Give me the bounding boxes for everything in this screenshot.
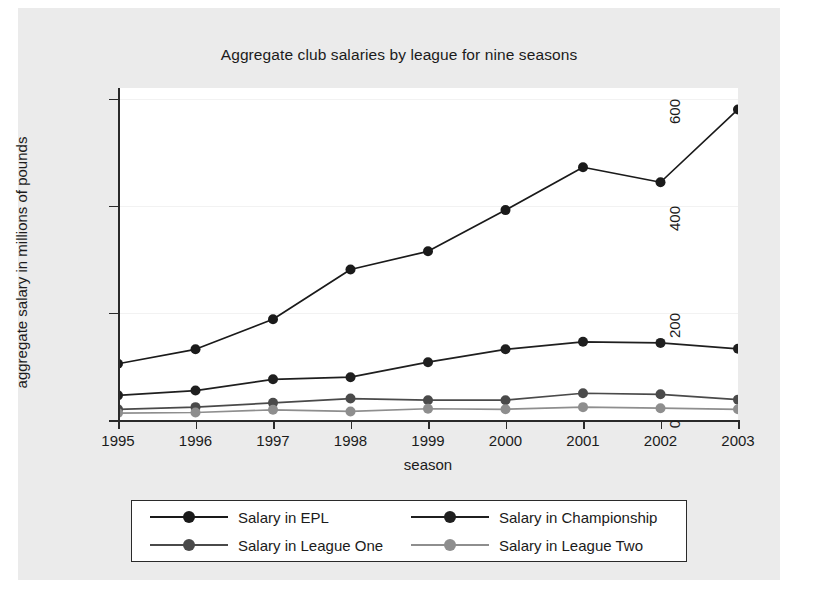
x-axis-tick bbox=[196, 420, 198, 429]
x-axis-tick bbox=[738, 420, 740, 429]
x-axis-tick-label: 1996 bbox=[179, 432, 212, 449]
data-point-salary-in-championship bbox=[578, 337, 588, 347]
legend-key-championship bbox=[411, 510, 489, 524]
x-axis-tick-label: 2002 bbox=[644, 432, 677, 449]
x-axis-tick-label: 1998 bbox=[334, 432, 367, 449]
x-axis-tick-label: 1999 bbox=[411, 432, 444, 449]
data-point-salary-in-championship bbox=[346, 372, 356, 382]
legend-label-league-two: Salary in League Two bbox=[499, 537, 643, 554]
data-point-salary-in-epl bbox=[268, 314, 278, 324]
y-axis-tick bbox=[109, 99, 118, 101]
data-point-salary-in-league-two bbox=[268, 405, 278, 415]
y-axis-tick bbox=[109, 420, 118, 422]
x-axis-tick bbox=[506, 420, 508, 429]
figure-canvas: Aggregate club salaries by league for ni… bbox=[18, 8, 780, 580]
x-axis-tick bbox=[351, 420, 353, 429]
x-axis-tick-label: 2000 bbox=[489, 432, 522, 449]
series-line-salary-in-championship bbox=[118, 342, 738, 396]
legend-marker-epl bbox=[183, 511, 195, 523]
data-point-salary-in-championship bbox=[268, 374, 278, 384]
x-axis-tick bbox=[428, 420, 430, 429]
x-axis-tick bbox=[661, 420, 663, 429]
x-axis-tick-label: 1995 bbox=[101, 432, 134, 449]
legend-marker-league-one bbox=[183, 539, 195, 551]
data-point-salary-in-league-one bbox=[578, 388, 588, 398]
y-axis-tick-label: 0 bbox=[666, 420, 683, 428]
data-point-salary-in-epl bbox=[423, 246, 433, 256]
y-axis-tick-label: 600 bbox=[666, 99, 683, 124]
legend-key-league-one bbox=[150, 538, 228, 552]
data-point-salary-in-championship bbox=[656, 338, 666, 348]
data-point-salary-in-championship bbox=[733, 344, 738, 354]
y-axis-line bbox=[118, 88, 120, 420]
x-axis-tick-label: 2003 bbox=[721, 432, 754, 449]
y-axis-tick-label: 400 bbox=[666, 206, 683, 231]
y-axis-tick bbox=[109, 206, 118, 208]
data-point-salary-in-league-two bbox=[423, 404, 433, 414]
x-axis-title: season bbox=[118, 456, 738, 473]
x-axis-tick bbox=[118, 420, 120, 429]
data-point-salary-in-epl bbox=[656, 177, 666, 187]
legend-label-epl: Salary in EPL bbox=[238, 509, 329, 526]
chart-title: Aggregate club salaries by league for ni… bbox=[18, 46, 780, 64]
data-point-salary-in-epl bbox=[501, 205, 511, 215]
legend-key-league-two bbox=[411, 538, 489, 552]
data-point-salary-in-league-one bbox=[733, 395, 738, 405]
legend-item-championship[interactable]: Salary in Championship bbox=[411, 509, 672, 526]
legend-marker-championship bbox=[444, 511, 456, 523]
data-point-salary-in-league-two bbox=[733, 404, 738, 414]
y-axis-tick-label: 200 bbox=[666, 313, 683, 338]
legend-marker-league-two bbox=[444, 539, 456, 551]
data-point-salary-in-league-two bbox=[656, 403, 666, 413]
x-axis-line bbox=[118, 420, 739, 422]
data-point-salary-in-league-one bbox=[346, 394, 356, 404]
data-point-salary-in-championship bbox=[423, 357, 433, 367]
legend-item-league-one[interactable]: Salary in League One bbox=[150, 537, 411, 554]
x-axis-tick-label: 1997 bbox=[256, 432, 289, 449]
legend-item-epl[interactable]: Salary in EPL bbox=[150, 509, 411, 526]
data-point-salary-in-epl bbox=[191, 344, 201, 354]
data-point-salary-in-league-one bbox=[656, 389, 666, 399]
y-axis-tick bbox=[109, 313, 118, 315]
x-axis-tick bbox=[583, 420, 585, 429]
data-point-salary-in-championship bbox=[501, 344, 511, 354]
data-point-salary-in-league-two bbox=[191, 408, 201, 418]
data-point-salary-in-championship bbox=[191, 386, 201, 396]
data-point-salary-in-league-two bbox=[501, 404, 511, 414]
legend-key-epl bbox=[150, 510, 228, 524]
legend-label-championship: Salary in Championship bbox=[499, 509, 657, 526]
plot-area bbox=[118, 88, 738, 420]
data-point-salary-in-league-one bbox=[501, 395, 511, 405]
data-point-salary-in-epl bbox=[346, 265, 356, 275]
data-point-salary-in-league-one bbox=[423, 395, 433, 405]
chart-legend: Salary in EPL Salary in Championship Sal… bbox=[131, 500, 687, 562]
x-axis-tick bbox=[273, 420, 275, 429]
x-axis-tick-label: 2001 bbox=[566, 432, 599, 449]
data-point-salary-in-league-two bbox=[578, 402, 588, 412]
legend-item-league-two[interactable]: Salary in League Two bbox=[411, 537, 672, 554]
y-axis-title: aggregate salary in millions of pounds bbox=[13, 48, 30, 478]
data-point-salary-in-league-two bbox=[346, 406, 356, 416]
data-point-salary-in-epl bbox=[578, 162, 588, 172]
plot-series-layer bbox=[118, 88, 738, 420]
legend-label-league-one: Salary in League One bbox=[238, 537, 383, 554]
series-line-salary-in-epl bbox=[118, 109, 738, 363]
